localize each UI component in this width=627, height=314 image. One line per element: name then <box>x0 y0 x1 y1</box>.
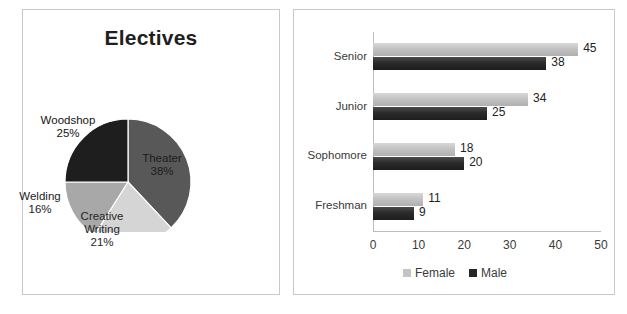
pie-slice-woodshop <box>65 119 128 182</box>
bar-value-senior-female: 45 <box>583 41 596 55</box>
bar-value-junior-female: 34 <box>533 91 546 105</box>
bar-value-senior-male: 38 <box>551 55 564 69</box>
pie-slice-group <box>65 119 191 232</box>
legend-item-female[interactable]: Female <box>403 266 455 280</box>
bar-sophomore-male <box>373 157 464 170</box>
legend-item-male[interactable]: Male <box>469 266 507 280</box>
bar-value-sophomore-female: 18 <box>460 141 473 155</box>
bar-junior-male <box>373 107 487 120</box>
bar-value-freshman-female: 11 <box>428 191 440 205</box>
x-tick-30: 30 <box>497 238 523 252</box>
bar-chart-x-axis <box>373 231 601 232</box>
bar-senior-female <box>373 43 578 56</box>
figure-canvas: Electives Theater38% Welding16% Creative… <box>0 0 627 314</box>
bar-chart-legend: FemaleMale <box>294 266 616 280</box>
pie-chart-svg <box>31 92 271 232</box>
legend-label-male: Male <box>481 266 507 280</box>
x-tick-50: 50 <box>588 238 614 252</box>
x-tick-40: 40 <box>542 238 568 252</box>
bar-category-label-freshman: Freshman <box>293 199 367 211</box>
bar-category-label-senior: Senior <box>293 50 367 62</box>
legend-swatch-female-icon <box>403 269 411 277</box>
electives-pie-panel: Electives Theater38% Welding16% Creative… <box>22 9 280 295</box>
bar-value-sophomore-male: 20 <box>469 155 482 169</box>
legend-label-female: Female <box>415 266 455 280</box>
legend-swatch-male-icon <box>469 269 477 277</box>
bar-freshman-male <box>373 207 414 220</box>
x-tick-0: 0 <box>360 238 386 252</box>
bar-value-junior-male: 25 <box>492 105 505 119</box>
bar-senior-male <box>373 57 546 70</box>
bar-freshman-female <box>373 193 423 206</box>
x-tick-20: 20 <box>451 238 477 252</box>
x-tick-10: 10 <box>406 238 432 252</box>
pie-chart-plot-area: Theater38% Welding16% CreativeWriting21%… <box>31 92 271 232</box>
class-by-gender-bar-panel: 453834251820119 SeniorJuniorSophomoreFre… <box>293 9 615 295</box>
bar-sophomore-female <box>373 143 455 156</box>
bar-category-label-junior: Junior <box>293 100 367 112</box>
bar-chart-plot-area: 453834251820119 SeniorJuniorSophomoreFre… <box>294 10 616 296</box>
bar-category-label-sophomore: Sophomore <box>293 149 367 161</box>
pie-chart-title: Electives <box>23 26 279 50</box>
bar-value-freshman-male: 9 <box>419 205 426 219</box>
